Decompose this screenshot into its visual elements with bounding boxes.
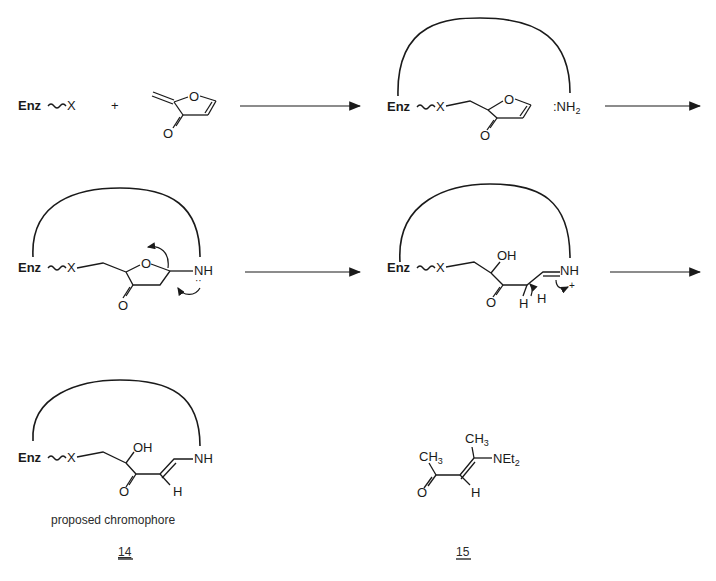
positive-charge: + — [569, 280, 575, 291]
enzyme-reactant: Enz X — [18, 98, 76, 113]
carbonyl-oxygen: O — [417, 485, 427, 500]
methyl-label: CH3 — [419, 449, 443, 466]
compound-caption: proposed chromophore — [51, 513, 175, 527]
enzyme-backbone-arc — [33, 380, 200, 446]
carbonyl-oxygen: O — [163, 126, 173, 141]
compound-number: 15 — [456, 545, 470, 559]
intermediate-3: Enz X OH O H H NH + — [387, 184, 579, 311]
compound-14: Enz X OH O H NH proposed chromophore 14 — [18, 380, 213, 559]
hydrogen-label: H — [173, 484, 182, 499]
curved-arrow-icon — [556, 280, 568, 288]
enz-label: Enz — [18, 98, 42, 113]
x-label: X — [67, 98, 76, 113]
enzyme-backbone-arc — [400, 184, 570, 262]
enz-label: Enz — [18, 450, 42, 465]
diethylamine-label: NEt2 — [493, 451, 520, 468]
methylene-furanone: O O — [152, 89, 216, 141]
carbonyl-oxygen: O — [118, 298, 128, 313]
hydroxyl-label: OH — [497, 248, 517, 263]
ring-oxygen: O — [504, 92, 514, 107]
intermediate-2: Enz X O O NH ·· — [18, 188, 213, 313]
carbonyl-oxygen: O — [480, 128, 490, 143]
wavy-linker-icon — [417, 105, 435, 109]
reaction-scheme: Enz X + O O Enz X O O :NH2 — [0, 0, 716, 581]
enzyme-backbone-arc — [398, 18, 570, 96]
ring-oxygen: O — [141, 256, 151, 271]
enzyme-backbone-arc — [33, 188, 200, 257]
enz-label: Enz — [18, 260, 42, 275]
compound-number: 14 — [118, 545, 132, 559]
intermediate-1: Enz X O O :NH2 — [387, 18, 580, 143]
compound-15: CH3 O H CH3 NEt2 15 — [417, 431, 520, 559]
hydrogen-label: H — [471, 485, 480, 500]
plus-sign: + — [111, 98, 119, 113]
x-label: X — [67, 260, 76, 275]
amine-label: NH — [194, 451, 213, 466]
enz-label: Enz — [387, 260, 411, 275]
carbonyl-oxygen: O — [119, 484, 129, 499]
hydrogen-label: H — [519, 296, 528, 311]
enz-label: Enz — [387, 99, 411, 114]
ring-oxygen: O — [189, 89, 199, 104]
wavy-linker-icon — [417, 266, 435, 270]
wavy-linker-icon — [48, 456, 66, 460]
wavy-linker-icon — [48, 266, 66, 270]
hydroxyl-label: OH — [133, 440, 153, 455]
iminium-label: NH — [560, 263, 579, 278]
curved-arrow-icon — [530, 284, 532, 296]
x-label: X — [436, 260, 445, 275]
x-label: X — [67, 450, 76, 465]
curved-arrow-icon — [178, 288, 200, 294]
x-label: X — [436, 99, 445, 114]
carbonyl-oxygen: O — [486, 295, 496, 310]
methyl-label: CH3 — [465, 431, 489, 448]
wavy-linker-icon — [48, 104, 66, 108]
hydrogen-label: H — [537, 291, 546, 306]
lone-pair: ·· — [195, 275, 202, 286]
amine-label: :NH2 — [553, 99, 580, 116]
